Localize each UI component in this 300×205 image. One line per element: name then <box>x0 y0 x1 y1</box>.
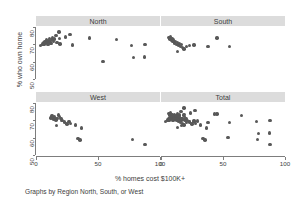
data-point <box>268 143 271 146</box>
x-axis-tick-label: 0 <box>29 160 43 167</box>
x-axis-tick-label: 50 <box>91 160 105 167</box>
panel-title-label: North <box>89 18 106 25</box>
data-point <box>189 111 192 114</box>
y-axis-tick-label: 80 <box>28 27 35 39</box>
data-point <box>203 138 206 141</box>
data-point <box>228 121 231 124</box>
panel-title-strip: North <box>36 16 160 26</box>
data-point <box>182 106 185 109</box>
y-axis-tick-label: 60 <box>28 62 35 74</box>
data-point <box>54 34 57 37</box>
data-point <box>131 138 134 141</box>
data-point <box>71 43 74 46</box>
data-point <box>226 136 229 139</box>
plot-area <box>161 103 285 155</box>
data-point <box>206 45 209 48</box>
data-point <box>80 126 83 129</box>
data-point <box>78 138 81 141</box>
data-point <box>255 120 258 123</box>
data-point <box>74 123 77 126</box>
data-point <box>64 35 67 38</box>
data-point <box>176 50 179 53</box>
plot-area <box>161 27 285 79</box>
y-axis-tick-label: 80 <box>28 103 35 115</box>
panel-title-strip: South <box>161 16 285 26</box>
data-point <box>68 33 71 36</box>
figure-caption: Graphs by Region North, South, or West <box>25 188 143 195</box>
panel-south: South <box>161 16 285 79</box>
panel-title-strip: West <box>36 92 160 102</box>
data-point <box>58 42 61 45</box>
data-point <box>130 44 133 47</box>
data-point <box>69 122 72 125</box>
plot-area <box>36 27 160 79</box>
data-point <box>194 122 197 125</box>
data-point <box>192 43 195 46</box>
plot-area <box>36 103 160 155</box>
data-point <box>88 36 91 39</box>
x-axis-tick-label: 0 <box>154 160 168 167</box>
data-point <box>256 138 259 141</box>
data-point <box>115 38 118 41</box>
data-point <box>188 44 191 47</box>
data-point-layer <box>36 103 160 155</box>
data-point <box>101 60 104 63</box>
data-point <box>132 56 135 59</box>
y-axis-tick-label: 70 <box>28 44 35 56</box>
data-point <box>176 126 179 129</box>
panel-total: Total <box>161 92 285 155</box>
y-axis-tick-label: 70 <box>28 120 35 132</box>
y-axis-line <box>35 27 36 79</box>
data-point <box>199 123 202 126</box>
panel-west: West <box>36 92 160 155</box>
x-axis-title: % homes cost $100K+ <box>0 175 300 182</box>
data-point <box>143 143 146 146</box>
data-point <box>58 37 61 40</box>
data-point <box>143 43 146 46</box>
panel-title-label: Total <box>216 94 231 101</box>
data-point-layer <box>36 27 160 79</box>
y-axis-tick-label: 60 <box>28 138 35 150</box>
data-point <box>257 132 260 135</box>
scatter-panel-figure: % who own home % homes cost $100K+ Graph… <box>0 0 300 205</box>
data-point <box>228 45 231 48</box>
data-point <box>240 114 243 117</box>
data-point <box>57 30 60 33</box>
y-axis-title: % who own home <box>16 5 23 115</box>
x-axis-tick-label: 100 <box>278 160 292 167</box>
data-point <box>215 36 218 39</box>
panel-north: North <box>36 16 160 79</box>
data-point <box>180 124 183 127</box>
data-point <box>143 55 146 58</box>
panel-title-label: South <box>214 18 232 25</box>
data-point-layer <box>161 27 285 79</box>
data-point <box>55 124 58 127</box>
data-point <box>193 109 196 112</box>
data-point-layer <box>161 103 285 155</box>
y-axis-tick-label: 50 <box>28 79 35 91</box>
x-axis-tick-label: 50 <box>216 160 230 167</box>
data-point <box>215 112 218 115</box>
y-axis-line <box>35 103 36 155</box>
data-point <box>268 119 271 122</box>
data-point <box>206 121 209 124</box>
panel-title-label: West <box>90 94 106 101</box>
data-point <box>205 126 208 129</box>
data-point <box>268 131 271 134</box>
panel-title-strip: Total <box>161 92 285 102</box>
